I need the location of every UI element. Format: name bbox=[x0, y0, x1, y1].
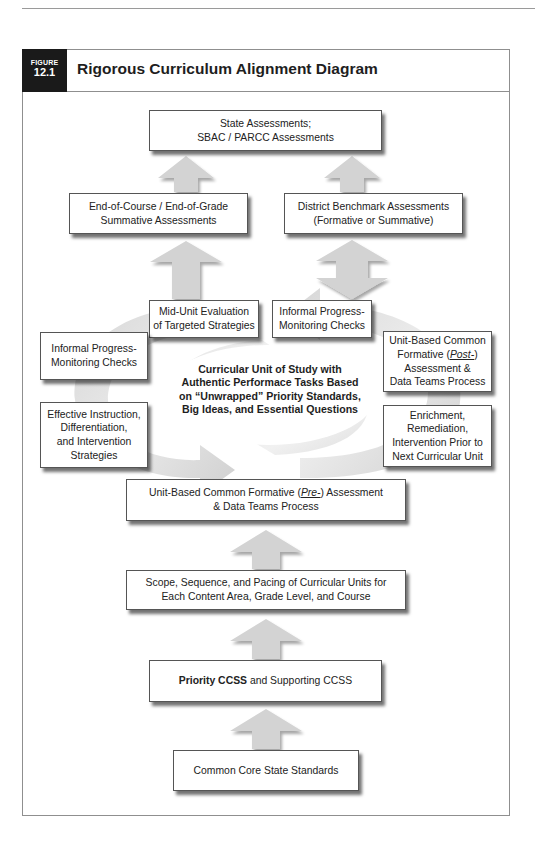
node-effective-instruction: Effective Instruction, Differentiation, … bbox=[40, 402, 148, 468]
node-text-bold: Priority CCSS bbox=[179, 675, 247, 686]
node-text: on “Unwrapped” Priority Standards, bbox=[165, 390, 375, 403]
node-district-benchmark: District Benchmark Assessments (Formativ… bbox=[284, 193, 463, 234]
node-text: and Intervention bbox=[47, 435, 140, 449]
node-text: Intervention Prior to bbox=[392, 436, 483, 450]
node-text: Data Teams Process bbox=[389, 375, 485, 389]
node-text: Assessment & bbox=[389, 362, 485, 376]
node-priority-ccss: Priority CCSS and Supporting CCSS bbox=[149, 660, 382, 702]
node-text: Scope, Sequence, and Pacing of Curricula… bbox=[146, 576, 387, 590]
node-mid-unit-evaluation: Mid-Unit Evaluation of Targeted Strategi… bbox=[149, 300, 259, 338]
node-text: & Data Teams Process bbox=[149, 500, 383, 514]
node-text: Unit-Based Common bbox=[389, 334, 485, 348]
node-text: Summative Assessments bbox=[89, 214, 228, 228]
node-post-assessment: Unit-Based Common Formative (Post-) Asse… bbox=[383, 331, 492, 392]
node-text-mixed: Formative (Post-) bbox=[389, 348, 485, 362]
node-text: Big Ideas, and Essential Questions bbox=[165, 403, 375, 416]
node-scope-sequence-pacing: Scope, Sequence, and Pacing of Curricula… bbox=[126, 570, 406, 610]
node-text: Enrichment, bbox=[392, 409, 483, 423]
node-informal-progress-top: Informal Progress- Monitoring Checks bbox=[272, 300, 372, 338]
node-curricular-unit-center: Curricular Unit of Study with Authentic … bbox=[165, 363, 375, 417]
node-text: Curricular Unit of Study with bbox=[165, 363, 375, 376]
node-text: Effective Instruction, bbox=[47, 408, 140, 422]
node-text: Informal Progress- bbox=[279, 305, 365, 319]
node-text: Differentiation, bbox=[47, 421, 140, 435]
node-common-core-state-standards: Common Core State Standards bbox=[173, 750, 359, 791]
node-text: Authentic Performace Tasks Based bbox=[165, 376, 375, 389]
node-text: State Assessments; bbox=[197, 117, 334, 131]
node-informal-progress-left: Informal Progress- Monitoring Checks bbox=[40, 332, 148, 380]
arrow-up-eoc-to-state bbox=[158, 156, 214, 192]
node-text: Formative ( bbox=[397, 349, 450, 360]
node-text: (Formative or Summative) bbox=[298, 214, 449, 228]
node-text: of Targeted Strategies bbox=[153, 319, 254, 333]
node-text: Mid-Unit Evaluation bbox=[153, 305, 254, 319]
node-text: ) Assessment bbox=[321, 487, 383, 498]
node-enrichment: Enrichment, Remediation, Intervention Pr… bbox=[383, 405, 492, 467]
node-text: SBAC / PARCC Assessments bbox=[197, 131, 334, 145]
arrow-up-ccss-to-priority bbox=[230, 709, 302, 749]
node-text: Strategies bbox=[47, 449, 140, 463]
node-pre-assessment: Unit-Based Common Formative (Pre-) Asses… bbox=[126, 479, 406, 521]
node-text: Common Core State Standards bbox=[194, 764, 339, 778]
node-text: Monitoring Checks bbox=[51, 356, 137, 370]
node-text: Each Content Area, Grade Level, and Cour… bbox=[146, 590, 387, 604]
node-text: Monitoring Checks bbox=[279, 319, 365, 333]
node-text-mixed: Priority CCSS and Supporting CCSS bbox=[179, 674, 352, 688]
node-text-emphasis: Pre- bbox=[301, 487, 321, 498]
node-text: Unit-Based Common Formative ( bbox=[149, 487, 301, 498]
node-text: Informal Progress- bbox=[51, 342, 137, 356]
node-end-of-course: End-of-Course / End-of-Grade Summative A… bbox=[69, 193, 248, 234]
node-text-emphasis: Post- bbox=[450, 349, 474, 360]
arrow-up-district-to-state bbox=[324, 156, 380, 192]
node-text: ) bbox=[474, 349, 477, 360]
node-text: District Benchmark Assessments bbox=[298, 200, 449, 214]
node-text: Remediation, bbox=[392, 422, 483, 436]
node-text: and Supporting CCSS bbox=[247, 675, 352, 686]
arrow-up-midunit-to-eoc bbox=[150, 241, 222, 299]
node-state-assessments: State Assessments; SBAC / PARCC Assessme… bbox=[149, 110, 382, 151]
node-text: Next Curricular Unit bbox=[392, 450, 483, 464]
arrow-double-informal-to-district bbox=[316, 240, 388, 299]
arrow-up-priority-to-scope bbox=[230, 619, 302, 659]
node-text: End-of-Course / End-of-Grade bbox=[89, 200, 228, 214]
node-text-mixed: Unit-Based Common Formative (Pre-) Asses… bbox=[149, 486, 383, 500]
arrow-up-scope-to-pre bbox=[230, 530, 302, 569]
